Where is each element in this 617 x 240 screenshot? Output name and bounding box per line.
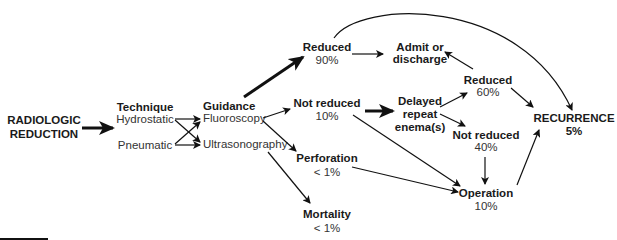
arrow-reduced-recurrence bbox=[334, 14, 572, 110]
guidance-ultrasonography: Ultrasonography bbox=[203, 138, 288, 150]
operation-label: Operation bbox=[459, 187, 513, 199]
delayed-line2: repeat bbox=[403, 108, 438, 120]
reduced-label: Reduced bbox=[303, 41, 352, 53]
arrow-reduced2-recurrence bbox=[511, 88, 533, 107]
arrow-hydro-ultra bbox=[175, 120, 200, 142]
arrow-to-not-reduced bbox=[263, 109, 290, 118]
not-reduced-label: Not reduced bbox=[293, 97, 360, 109]
guidance-fluoroscopy: Fluoroscopy bbox=[203, 112, 266, 124]
not-reduced2-label: Not reduced bbox=[452, 129, 519, 141]
admit-line2: discharge bbox=[393, 53, 447, 65]
mortality-label: Mortality bbox=[303, 208, 352, 220]
flow-diagram: RADIOLOGIC REDUCTION Technique Hydrostat… bbox=[0, 0, 617, 240]
arrow-delayed-reduced bbox=[440, 93, 467, 107]
perforation-label: Perforation bbox=[296, 152, 357, 164]
arrow-pneu-fluoro bbox=[175, 122, 200, 144]
technique-title: Technique bbox=[117, 101, 174, 113]
delayed-line3: enema(s) bbox=[395, 121, 446, 133]
guidance-title: Guidance bbox=[203, 100, 255, 112]
reduced-value: 90% bbox=[315, 54, 338, 66]
mortality-value: < 1% bbox=[314, 222, 341, 234]
technique-pneumatic: Pneumatic bbox=[118, 139, 173, 151]
not-reduced-value: 10% bbox=[315, 110, 338, 122]
arrow-reduced2-admit bbox=[445, 52, 473, 69]
start-label-line1: RADIOLOGIC bbox=[7, 114, 80, 126]
arrow-to-reduced bbox=[244, 57, 303, 97]
admit-line1: Admit or bbox=[396, 41, 444, 53]
perforation-value: < 1% bbox=[314, 166, 341, 178]
recurrence-label: RECURRENCE bbox=[533, 112, 614, 124]
delayed-line1: Delayed bbox=[398, 95, 442, 107]
arrow-operation-recurrence bbox=[517, 130, 539, 185]
arrow-perforation-operation bbox=[352, 167, 458, 192]
recurrence-value: 5% bbox=[566, 125, 583, 137]
not-reduced2-value: 40% bbox=[474, 141, 497, 153]
reduced2-label: Reduced bbox=[464, 74, 513, 86]
operation-value: 10% bbox=[474, 200, 497, 212]
reduced2-value: 60% bbox=[476, 86, 499, 98]
technique-hydrostatic: Hydrostatic bbox=[116, 113, 174, 125]
start-label-line2: REDUCTION bbox=[10, 128, 78, 140]
